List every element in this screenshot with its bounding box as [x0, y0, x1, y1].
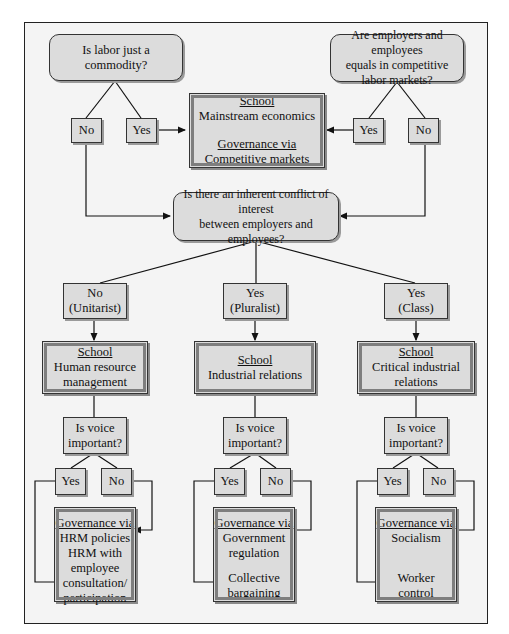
answer-label: Yes	[407, 286, 425, 301]
school-name: relations	[394, 375, 437, 390]
question-line: Is voice	[235, 421, 274, 436]
question-labor-commodity: Is labor just a commodity?	[49, 34, 183, 81]
school-critical-industrial-relations: School Critical industrial relations	[357, 341, 475, 394]
question-inherent-conflict: Is there an inherent conflict of interes…	[173, 192, 339, 241]
governance-label: Governance via	[377, 516, 456, 531]
answer-yes-commodity: Yes	[126, 118, 157, 143]
school-label: School	[78, 345, 113, 360]
answer-label: Yes	[246, 286, 264, 301]
answer-label: Yes	[383, 474, 401, 489]
governance-no-voice: Government	[223, 531, 285, 546]
question-voice-important: Is voice important?	[63, 417, 127, 454]
governance-no-voice: HRM policies	[60, 531, 130, 546]
governance-label: Governance via	[218, 137, 297, 152]
answer-unitarist: No (Unitarist)	[63, 283, 127, 319]
school-name: Human resource	[54, 360, 136, 375]
answer-label: No	[268, 474, 283, 489]
governance-socialism: Governance via Socialism Worker control	[375, 507, 457, 602]
governance-yes-voice: bargaining	[227, 586, 280, 601]
answer-label: Yes	[61, 474, 79, 489]
governance-government-regulation: Governance via Government regulation Col…	[213, 507, 295, 602]
answer-no-voice: No	[260, 468, 291, 495]
question-voice-important: Is voice important?	[223, 417, 287, 454]
school-industrial-relations: School Industrial relations	[194, 341, 316, 394]
question-line: important?	[68, 436, 122, 451]
answer-yes-voice: Yes	[214, 468, 245, 495]
question-line: equals in competitive	[346, 58, 449, 73]
governance-yes-voice: HRM with	[68, 546, 122, 561]
answer-yes-equals: Yes	[353, 118, 384, 143]
answer-label: No	[109, 474, 124, 489]
answer-no-commodity: No	[71, 118, 102, 143]
answer-sub: (Pluralist)	[230, 301, 280, 316]
question-line: important?	[228, 436, 282, 451]
school-mainstream-economics: School Mainstream economics Governance v…	[189, 93, 325, 168]
governance-value: Competitive markets	[205, 152, 310, 167]
governance-label: Governance via	[215, 516, 294, 531]
answer-label: No	[87, 286, 102, 301]
answer-yes-voice: Yes	[377, 468, 408, 495]
question-voice-important: Is voice important?	[384, 417, 448, 454]
answer-sub: (Class)	[398, 301, 433, 316]
question-line: between employers and employees?	[174, 217, 338, 247]
school-label: School	[240, 94, 275, 109]
answer-label: Yes	[132, 123, 150, 138]
answer-label: Yes	[220, 474, 238, 489]
governance-yes-voice: participation	[63, 591, 126, 606]
question-line: Are employers and employees	[331, 28, 463, 58]
question-line: Is labor just a	[82, 43, 150, 58]
answer-label: No	[416, 123, 431, 138]
answer-label: No	[431, 474, 446, 489]
governance-hrm: Governance via HRM policies HRM with emp…	[54, 507, 136, 602]
answer-label: Yes	[359, 123, 377, 138]
question-line: important?	[389, 436, 443, 451]
school-label: School	[238, 353, 273, 368]
answer-sub: (Unitarist)	[69, 301, 121, 316]
school-hrm: School Human resource management	[42, 341, 148, 394]
answer-no-equals: No	[408, 118, 439, 143]
governance-no-voice: Socialism	[391, 531, 440, 546]
answer-yes-voice: Yes	[55, 468, 86, 495]
question-line: commodity?	[85, 58, 148, 73]
governance-yes-voice: control	[398, 586, 433, 601]
school-name: Critical industrial	[372, 360, 460, 375]
school-name: Mainstream economics	[199, 109, 315, 124]
governance-no-voice: regulation	[229, 546, 280, 561]
answer-no-voice: No	[423, 468, 454, 495]
governance-yes-voice: Collective	[228, 571, 279, 586]
question-line: labor markets?	[362, 73, 433, 88]
question-line: Is voice	[396, 421, 435, 436]
school-name: Industrial relations	[208, 368, 302, 383]
answer-no-voice: No	[101, 468, 132, 495]
question-line: Is voice	[75, 421, 114, 436]
school-name: management	[63, 375, 127, 390]
question-line: Is there an inherent conflict of interes…	[174, 187, 338, 217]
answer-pluralist: Yes (Pluralist)	[223, 283, 287, 319]
governance-yes-voice: consultation/	[63, 576, 128, 591]
question-equals-in-markets: Are employers and employees equals in co…	[330, 34, 464, 82]
answer-label: No	[79, 123, 94, 138]
governance-yes-voice: Worker	[397, 571, 434, 586]
governance-label: Governance via	[56, 516, 135, 531]
governance-yes-voice: employee	[71, 561, 120, 576]
answer-class: Yes (Class)	[384, 283, 448, 319]
school-label: School	[399, 345, 434, 360]
